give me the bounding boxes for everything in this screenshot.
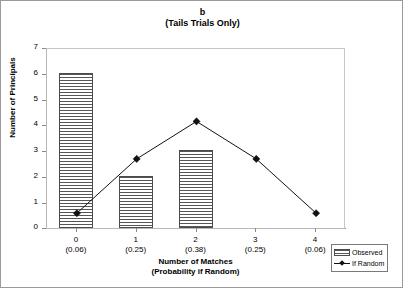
title-block: b (Tails Trials Only)	[1, 7, 403, 29]
y-tick-label: 5	[34, 94, 38, 103]
plot-area	[46, 48, 345, 229]
chart-subtitle: (Tails Trials Only)	[1, 18, 403, 29]
x-tick-mark-1	[136, 228, 137, 232]
if-random-line-series	[47, 49, 346, 230]
x-tick-mark-2	[196, 228, 197, 232]
x-tick-mark-4	[315, 228, 316, 232]
plot-inner	[47, 49, 344, 228]
x-tick-category: 1	[106, 235, 166, 245]
x-tick-probability: (0.25)	[106, 245, 166, 255]
figure-container: b (Tails Trials Only) Number of Principa…	[0, 0, 403, 288]
x-axis-title: Number of Matches (Probability if Random…	[46, 257, 345, 277]
legend-item-observed: Observed	[334, 247, 384, 258]
y-tick-label: 2	[34, 171, 38, 180]
y-tick-label: 4	[34, 119, 38, 128]
diamond-marker-icon	[339, 260, 345, 266]
y-tick-label: 6	[34, 68, 38, 77]
line-marker-2	[193, 118, 200, 125]
y-tick-label: 3	[34, 145, 38, 154]
x-axis-title-line2: (Probability if Random)	[46, 267, 345, 277]
x-tick-label-2: 2 (0.38)	[166, 235, 226, 255]
y-tick-label: 7	[34, 42, 38, 51]
y-axis-title: Number of Principals	[8, 43, 17, 153]
bar-swatch-icon	[334, 249, 350, 256]
x-axis-title-line1: Number of Matches	[158, 257, 232, 266]
x-tick-mark-0	[76, 228, 77, 232]
x-tick-label-1: 1 (0.25)	[106, 235, 166, 255]
y-tick-label: 0	[34, 222, 38, 231]
if-random-polyline	[77, 121, 316, 213]
x-tick-label-3: 3 (0.25)	[225, 235, 285, 255]
x-tick-probability: (0.38)	[166, 245, 226, 255]
x-tick-label-0: 0 (0.06)	[46, 235, 106, 255]
legend-item-if-random: If Random	[334, 258, 384, 269]
line-swatch-icon	[334, 260, 350, 267]
legend-label: Observed	[352, 249, 382, 257]
x-tick-category: 2	[166, 235, 226, 245]
x-tick-probability: (0.25)	[225, 245, 285, 255]
legend-label: If Random	[352, 260, 384, 268]
x-tick-probability: (0.06)	[46, 245, 106, 255]
x-tick-mark-3	[255, 228, 256, 232]
x-tick-category: 0	[46, 235, 106, 245]
legend: Observed If Random	[331, 244, 388, 272]
x-tick-category: 3	[225, 235, 285, 245]
y-tick-label: 1	[34, 197, 38, 206]
chart-title: b	[1, 7, 403, 18]
